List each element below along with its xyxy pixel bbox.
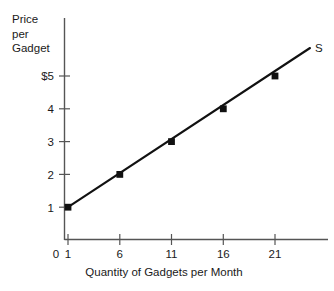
data-point-marker	[220, 105, 227, 112]
y-axis-label: PriceperGadget	[12, 12, 50, 56]
data-point-marker	[272, 73, 279, 80]
supply-curve-line	[68, 48, 310, 207]
x-tick-label-1: 1	[65, 248, 71, 260]
y-tick-label-5: $5	[41, 70, 54, 82]
data-point-marker	[65, 204, 72, 211]
y-tick-label-2: 2	[48, 169, 54, 181]
supply-curve-chart: PriceperGadget 1 2 3 4 $5 0 1 6 11 16 21	[0, 0, 334, 291]
x-tick-label-16: 16	[217, 248, 230, 260]
y-axis-label-line-3: Gadget	[12, 42, 50, 54]
y-tick-label-4: 4	[48, 103, 55, 115]
x-tick-label-21: 21	[269, 248, 282, 260]
y-tick-label-3: 3	[48, 136, 54, 148]
chart-canvas: 1 2 3 4 $5 0 1 6 11 16 21 S	[0, 0, 334, 291]
x-tick-label-6: 6	[117, 248, 123, 260]
data-point-marker	[116, 171, 123, 178]
y-tick-label-1: 1	[48, 202, 54, 214]
y-axis-label-line-1: Price	[12, 13, 38, 25]
y-axis-label-line-2: per	[12, 28, 29, 40]
supply-curve-label: S	[315, 42, 323, 54]
x-origin-label: 0	[53, 248, 59, 260]
x-tick-label-11: 11	[166, 248, 178, 260]
x-axis-label: Quantity of Gadgets per Month	[0, 266, 334, 278]
data-point-marker	[168, 138, 175, 145]
